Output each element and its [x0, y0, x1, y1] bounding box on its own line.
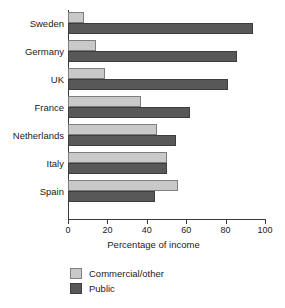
category-label-netherlands: Netherlands — [0, 130, 64, 141]
legend-label-public: Public — [89, 283, 115, 294]
category-label-france: France — [0, 102, 64, 113]
bar-public-uk — [68, 79, 228, 90]
x-tick-80 — [226, 220, 227, 224]
x-tick-100 — [265, 220, 266, 224]
bar-commercial-uk — [68, 68, 105, 79]
bar-public-italy — [68, 163, 167, 174]
dark-gray-swatch — [70, 283, 82, 294]
x-tick-label-60: 60 — [174, 225, 198, 236]
bar-commercial-netherlands — [68, 124, 157, 135]
x-tick-label-20: 20 — [95, 225, 119, 236]
bar-commercial-sweden — [68, 12, 84, 23]
x-tick-60 — [186, 220, 187, 224]
bar-commercial-spain — [68, 180, 178, 191]
x-tick-20 — [107, 220, 108, 224]
x-axis-title: Percentage of income — [0, 239, 285, 251]
bar-public-france — [68, 107, 190, 118]
bar-commercial-italy — [68, 152, 167, 163]
bar-public-netherlands — [68, 135, 176, 146]
bar-public-sweden — [68, 23, 253, 34]
x-tick-label-40: 40 — [135, 225, 159, 236]
light-gray-swatch — [70, 268, 82, 279]
bar-commercial-france — [68, 96, 141, 107]
x-tick-label-0: 0 — [56, 225, 80, 236]
x-tick-label-80: 80 — [214, 225, 238, 236]
bar-commercial-germany — [68, 40, 96, 51]
legend-item-public: Public — [70, 281, 164, 296]
category-label-uk: UK — [0, 74, 64, 85]
x-tick-40 — [147, 220, 148, 224]
category-label-spain: Spain — [0, 186, 64, 197]
category-label-germany: Germany — [0, 46, 64, 57]
x-tick-label-100: 100 — [253, 225, 277, 236]
category-label-italy: Italy — [0, 158, 64, 169]
category-label-sweden: Sweden — [0, 18, 64, 29]
x-tick-0 — [68, 220, 69, 224]
legend-label-commercial: Commercial/other — [89, 268, 164, 279]
bar-public-germany — [68, 51, 237, 62]
bar-chart: 020406080100 SwedenGermanyUKFranceNether… — [0, 0, 285, 308]
legend-item-commercial: Commercial/other — [70, 266, 164, 281]
bar-public-spain — [68, 191, 155, 202]
x-axis-line — [68, 219, 266, 220]
chart-legend: Commercial/other Public — [70, 266, 164, 296]
